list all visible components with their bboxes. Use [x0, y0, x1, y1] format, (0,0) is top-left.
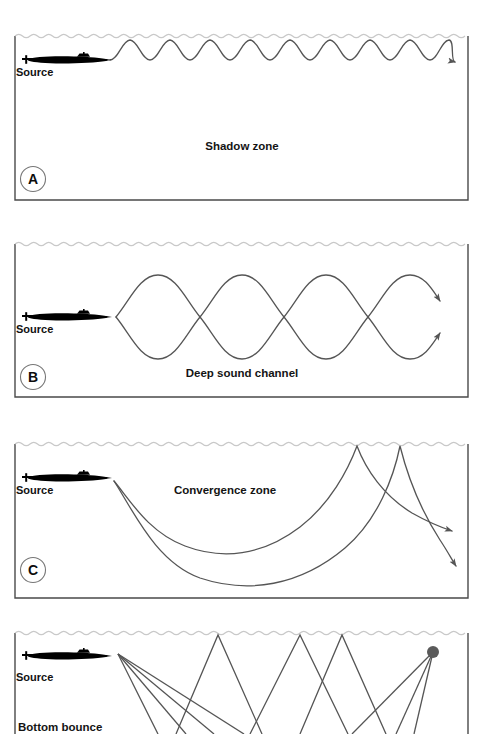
sound-propagation-figure: Source Shadow zone A Source Deep sound c… — [0, 0, 484, 734]
panel-d-receiver — [427, 646, 439, 658]
panel-d-source-label: Source — [16, 671, 53, 683]
panel-a-zone-label: Shadow zone — [205, 140, 278, 152]
panel-a-letter: A — [28, 171, 38, 187]
panel-a-source-label: Source — [16, 66, 53, 78]
panel-c-letter: C — [28, 562, 38, 578]
panel-b-source-label: Source — [16, 323, 53, 335]
panel-d-zone-label: Bottom bounce — [18, 721, 102, 733]
panel-c-zone-label: Convergence zone — [174, 484, 276, 496]
panel-b-zone-label: Deep sound channel — [186, 367, 298, 379]
panel-c-source-label: Source — [16, 484, 53, 496]
panel-b-letter: B — [28, 369, 38, 385]
